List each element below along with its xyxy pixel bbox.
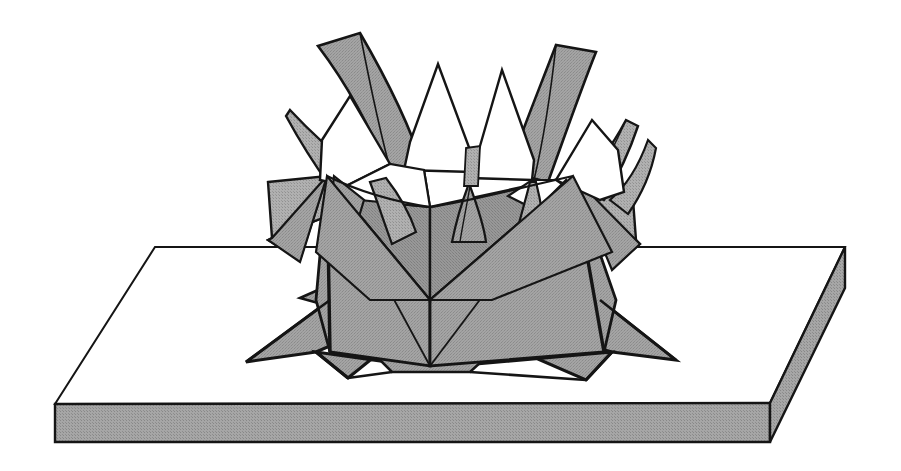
origami-illustration: [0, 0, 901, 471]
figure-root: [0, 0, 901, 471]
slab-front-edge: [55, 403, 770, 442]
petal-inner-notch: [464, 146, 480, 186]
petal-inner-center-left: [404, 64, 472, 172]
